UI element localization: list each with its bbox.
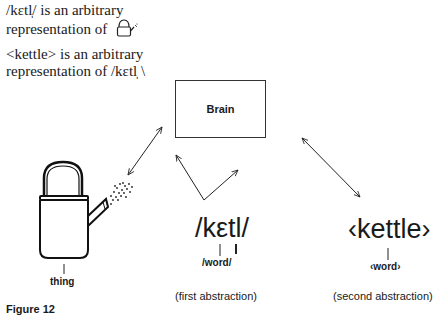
kettle-icon (40, 162, 108, 258)
figure-caption: Figure 12 (6, 303, 55, 315)
first-abstraction-label: /word/ (202, 257, 231, 268)
arrow-brain-thing (128, 127, 162, 175)
second-abstraction-symbol: ‹kettle› (348, 214, 431, 244)
second-abstraction-label: ‹word› (370, 261, 401, 272)
steam-dots (110, 182, 133, 205)
first-abstraction-symbol: /kεtl/ (195, 213, 249, 243)
second-abstraction-caption: (second abstraction) (333, 290, 433, 302)
first-abstraction-caption: (first abstraction) (175, 290, 257, 302)
thing-label: thing (50, 276, 74, 287)
arrow-brain-first (176, 155, 238, 200)
arrow-brain-second (302, 138, 360, 197)
